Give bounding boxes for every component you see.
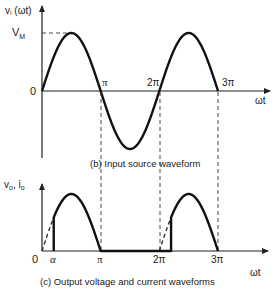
- input-waveform-plot: vᵢ (ωt) VM 0 ωt π 2π 3π (b) Input source…: [5, 5, 270, 169]
- output-waveform-plot: vo, io 0 α π 2π 3π ωt (c) Output voltage…: [4, 179, 268, 287]
- bottom-tick-3pi: 3π: [211, 254, 224, 265]
- bottom-tick-pi: π: [97, 253, 103, 265]
- bottom-y-axis-label: vo, io: [4, 179, 25, 191]
- waveform-diagram: vᵢ (ωt) VM 0 ωt π 2π 3π (b) Input source…: [0, 0, 276, 290]
- top-tick-pi: π: [102, 76, 108, 88]
- bottom-x-axis-label: ωt: [250, 267, 261, 278]
- top-x-axis-label: ωt: [255, 95, 266, 106]
- unfired-segment-1: [42, 218, 54, 252]
- top-caption: (b) Input source waveform: [90, 158, 200, 169]
- top-tick-3pi: 3π: [222, 77, 235, 88]
- output-waveform: [54, 194, 218, 251]
- bottom-origin-label: 0: [32, 253, 38, 265]
- top-tick-2pi: 2π: [147, 77, 160, 88]
- peak-label: VM: [12, 26, 25, 40]
- top-origin-label: 0: [30, 85, 36, 97]
- unfired-segment-2: [159, 218, 171, 252]
- alpha-label: α: [50, 253, 56, 265]
- bottom-caption: (c) Output voltage and current waveforms: [40, 276, 215, 287]
- bottom-tick-2pi: 2π: [153, 254, 166, 265]
- top-y-axis-label: vᵢ (ωt): [5, 5, 32, 16]
